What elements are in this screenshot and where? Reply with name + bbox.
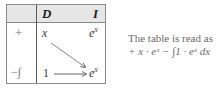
integration-by-parts-table: D I + x ex −∫ 1 ex [6,4,106,84]
note-line-1: The table is read as [128,32,213,45]
arrows-icon [7,5,107,85]
explanation-note: The table is read as + x · eˣ − ∫1 · eˣ … [128,32,213,58]
diagonal-arrow-icon [51,43,85,67]
note-formula: + x · eˣ − ∫1 · eˣ dx [128,45,213,58]
